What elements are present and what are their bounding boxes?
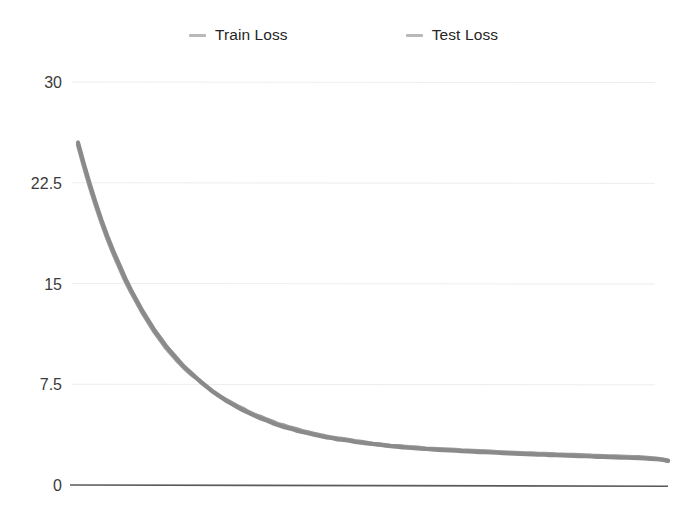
y-axis-tick-label: 7.5 — [40, 376, 62, 393]
axis-baseline — [70, 485, 668, 486]
gridlines — [70, 82, 668, 486]
gridline — [72, 183, 655, 184]
gridline — [72, 384, 655, 385]
gridline — [72, 82, 655, 83]
y-axis-tick-labels: 07.51522.530 — [31, 74, 62, 494]
line-series-test-loss — [78, 145, 668, 461]
y-axis-tick-label: 30 — [44, 74, 62, 91]
data-lines — [78, 142, 668, 460]
y-axis-tick-label: 15 — [44, 276, 62, 293]
plot-area: 07.51522.530 — [0, 0, 687, 519]
gridline — [72, 284, 655, 285]
loss-chart: Train Loss Test Loss 07.51522.530 — [0, 0, 687, 519]
y-axis-tick-label: 22.5 — [31, 175, 62, 192]
line-series-train-loss — [78, 142, 668, 460]
plot-svg: 07.51522.530 — [0, 0, 687, 519]
y-axis-tick-label: 0 — [53, 477, 62, 494]
